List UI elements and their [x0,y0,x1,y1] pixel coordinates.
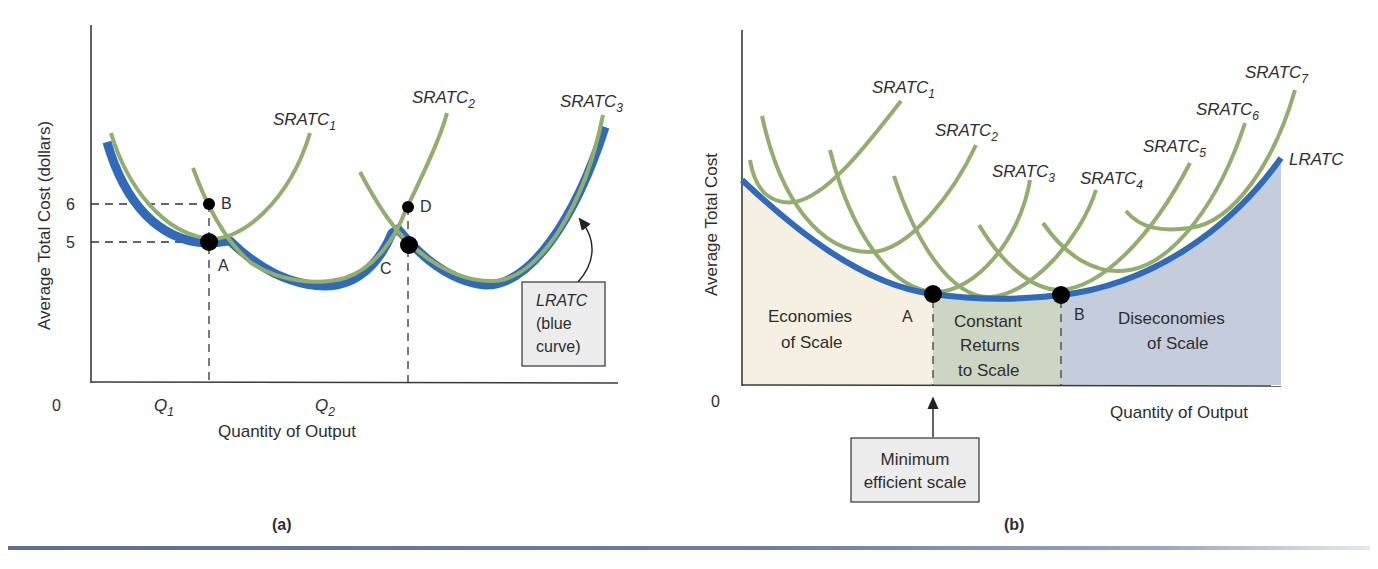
sratc7-label-b: SRATC7 [1245,63,1309,86]
x-axis-label-a: Quantity of Output [218,422,356,441]
x-axis-label-b: Quantity of Output [1110,403,1248,422]
y-axis-label-b: Average Total Cost [702,153,721,296]
sratc5-label-b: SRATC5 [1143,137,1206,160]
sratc2-label-a: SRATC2 [412,88,475,111]
callout-arrow-a [578,222,592,282]
point-a-label-a: A [218,257,229,274]
point-b-b [1052,286,1070,304]
sratc4-label-b: SRATC4 [1080,169,1143,192]
sratc6-label-b: SRATC6 [1196,100,1259,123]
point-b-label-b: B [1074,306,1085,323]
sratc3-label-a: SRATC3 [560,92,623,115]
point-a-a [200,233,218,251]
panel-b-caption: (b) [1004,516,1024,533]
lratc-curve-a [107,127,605,286]
constant-label-1: Constant [954,312,1022,331]
y-axis-label-a: Average Total Cost (dollars) [35,121,54,330]
sratc1-label-a: SRATC1 [273,110,336,133]
lratc-label-b: LRATC [1289,150,1344,169]
sratc3-curve-b [894,176,1096,297]
sratc3-label-b: SRATC3 [992,162,1055,185]
economies-label-2: of Scale [781,333,842,352]
panel-a-caption: (a) [272,516,292,533]
point-d-a [402,201,414,213]
callout-line2-a: (blue [536,315,572,332]
panel-b-x-axis [742,385,1281,386]
bottom-divider [8,546,1370,550]
callout-line3-a: curve) [536,338,580,355]
origin-label-b: 0 [711,393,720,410]
panel-b: A B Economies of Scale Constant Returns … [702,30,1344,533]
mes-line2: efficient scale [864,473,967,492]
mes-callout-box [851,438,979,502]
origin-label-a: 0 [52,397,61,414]
point-d-label-a: D [420,198,432,215]
diseconomies-label-2: of Scale [1147,334,1208,353]
point-c-a [400,236,418,254]
point-a-label-b: A [902,308,913,325]
figure-canvas: B A D C 6 5 0 Q1 Q2 Quantity of Output A… [0,0,1378,569]
constant-label-2: Returns [960,336,1020,355]
x-tick-q2: Q2 [315,396,335,419]
callout-line1-a: LRATC [536,292,588,309]
y-tick-5: 5 [66,234,75,251]
y-tick-6: 6 [66,196,75,213]
point-b-a [203,198,215,210]
diseconomies-label-1: Diseconomies [1118,309,1225,328]
sratc3-curve-a [360,115,603,281]
point-a-b [924,285,942,303]
economies-label-1: Economies [768,307,852,326]
sratc1-curve-a [111,133,310,239]
mes-line1: Minimum [881,450,950,469]
panel-a: B A D C 6 5 0 Q1 Q2 Quantity of Output A… [35,25,623,533]
point-b-label-a: B [221,195,232,212]
point-c-label-a: C [380,260,392,277]
sratc1-label-b: SRATC1 [872,78,935,101]
constant-label-3: to Scale [958,361,1019,380]
sratc2-label-b: SRATC2 [935,121,998,144]
panel-a-x-axis [91,382,618,383]
x-tick-q1: Q1 [154,396,174,419]
